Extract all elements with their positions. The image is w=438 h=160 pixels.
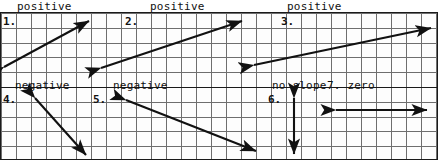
- slope-worksheet: positive positive positive 1. 2. 3. nega…: [0, 0, 438, 160]
- problem-number-6: 6.: [268, 94, 281, 105]
- problem-number-1: 1.: [3, 16, 16, 27]
- answer-label-3: positive: [287, 1, 342, 12]
- problem-number-2: 2.: [125, 16, 138, 27]
- problem-number-5: 5.: [93, 94, 106, 105]
- answer-label-5: negative: [113, 80, 168, 91]
- answer-label-7: 7. zero: [327, 80, 375, 91]
- answer-label-4: negative: [15, 80, 70, 91]
- answer-label-1: positive: [17, 1, 72, 12]
- problem-number-4: 4.: [3, 94, 16, 105]
- answer-label-2: positive: [150, 1, 205, 12]
- answer-label-6: no slope: [272, 80, 327, 91]
- problem-number-3: 3.: [281, 16, 294, 27]
